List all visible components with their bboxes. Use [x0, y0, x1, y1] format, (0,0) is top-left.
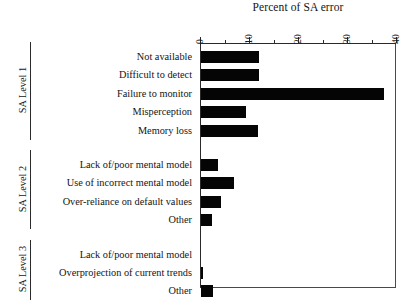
- bar: [201, 267, 203, 279]
- group-label-text: SA Level 3: [16, 246, 30, 292]
- chart-title: Percent of SA error: [200, 1, 396, 13]
- bar: [201, 196, 221, 208]
- group-label: SA Level 1: [0, 83, 28, 97]
- plot-area: [200, 44, 396, 288]
- x-tick-label: 30: [342, 34, 352, 44]
- x-tick-label: 10: [244, 34, 254, 44]
- group-label: SA Level 3: [0, 262, 28, 276]
- bar: [201, 106, 246, 118]
- x-tick-minor: [323, 40, 324, 44]
- bar: [201, 177, 234, 189]
- bar: [201, 214, 212, 226]
- x-tick-label: 40: [391, 34, 401, 44]
- bar: [201, 159, 218, 171]
- x-tick-minor: [274, 40, 275, 44]
- group-label-text: SA Level 1: [16, 67, 30, 113]
- bar: [201, 69, 259, 81]
- group-label: SA Level 2: [0, 182, 28, 196]
- bar: [201, 125, 258, 137]
- group-label-text: SA Level 2: [16, 165, 30, 211]
- bar: [201, 88, 384, 100]
- x-tick-minor: [372, 40, 373, 44]
- bar: [201, 51, 259, 63]
- bar: [201, 285, 213, 297]
- x-tick-minor: [225, 40, 226, 44]
- chart-figure: Percent of SA error 010203040 Not availa…: [0, 0, 415, 302]
- x-tick-label: 20: [293, 34, 303, 44]
